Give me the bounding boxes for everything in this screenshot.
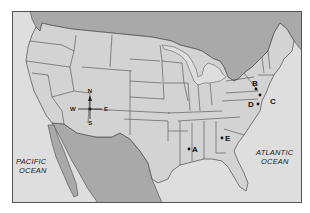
svg-text:C: C bbox=[270, 97, 276, 106]
compass-east: E bbox=[104, 106, 108, 112]
svg-text:B: B bbox=[252, 79, 258, 88]
svg-text:D: D bbox=[248, 100, 254, 109]
svg-text:E: E bbox=[225, 134, 231, 143]
pacific-ocean-label-2: OCEAN bbox=[19, 166, 47, 175]
compass-north: N bbox=[88, 88, 92, 94]
atlantic-ocean-label-1: ATLANTIC bbox=[255, 148, 294, 157]
compass-west: W bbox=[70, 106, 76, 112]
pacific-ocean-label-1: PACIFIC bbox=[16, 157, 47, 166]
us-map: N S E W PACIFIC OCEAN ATLANTIC OCEAN A B… bbox=[12, 11, 302, 203]
compass-south: S bbox=[88, 120, 92, 126]
atlantic-ocean-label-2: OCEAN bbox=[261, 157, 289, 166]
svg-text:A: A bbox=[192, 145, 198, 154]
